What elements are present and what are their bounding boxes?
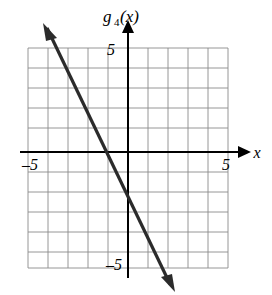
figure-background bbox=[0, 0, 272, 295]
x-tick-label-min: –5 bbox=[21, 156, 38, 173]
y-tick-label-min: –5 bbox=[105, 256, 122, 273]
function-label-arg: (x) bbox=[120, 7, 139, 26]
x-axis-label: x bbox=[252, 144, 260, 161]
y-tick-label-max: 5 bbox=[107, 41, 115, 58]
function-label-base: g bbox=[103, 7, 112, 26]
graph-figure: g 4 (x) 5 –5 –5 5 x bbox=[0, 0, 272, 295]
x-tick-label-max: 5 bbox=[222, 156, 230, 173]
